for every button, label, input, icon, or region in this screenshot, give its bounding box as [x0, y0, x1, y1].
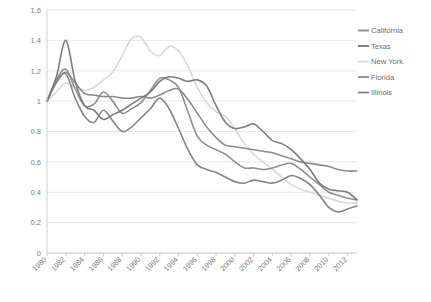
y-tick-label: 0.6 — [30, 158, 41, 167]
legend-label: California — [371, 26, 404, 35]
y-axis-tick-labels: 00.20.40.60.811.21.41.6 — [30, 6, 41, 258]
legend-label: New York — [371, 57, 403, 66]
y-tick-label: 0.2 — [30, 218, 41, 227]
legend-label: Illinois — [371, 88, 392, 97]
legend-label: Texas — [371, 42, 391, 51]
y-tick-label: 1.6 — [30, 6, 41, 15]
y-tick-label: 1.2 — [30, 67, 41, 76]
line-chart: 00.20.40.60.811.21.41.6 1980198219841986… — [0, 0, 431, 302]
y-tick-label: 1 — [37, 97, 41, 106]
y-tick-label: 0.4 — [30, 188, 41, 197]
y-tick-label: 0.8 — [30, 127, 41, 136]
y-tick-label: 1.4 — [30, 36, 41, 45]
legend-label: Florida — [371, 73, 395, 82]
